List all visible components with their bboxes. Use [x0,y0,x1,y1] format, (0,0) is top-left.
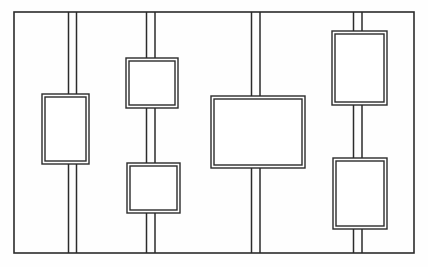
panel-center-large [211,96,305,168]
panel-left-inner-border [45,97,86,161]
panel-lower-right [333,158,387,229]
panel-upper-middle [126,58,178,108]
panel-lower-middle [127,163,180,213]
panel-left [42,94,89,164]
panel-upper-right-inner-border [335,34,384,102]
line-diagram-canvas [0,0,428,267]
panel-lower-right-inner-border [336,161,384,226]
panel-upper-middle-inner-border [129,61,175,105]
panel-center-large-inner-border [214,99,302,165]
panel-upper-right [332,31,387,105]
diagram-root [0,0,428,267]
panel-lower-middle-inner-border [130,166,177,210]
